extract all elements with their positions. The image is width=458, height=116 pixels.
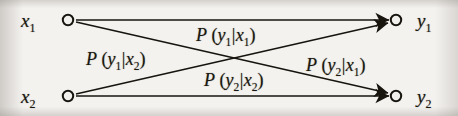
node-label-y1: y1 xyxy=(417,11,431,34)
node-label-x2: x2 xyxy=(21,87,35,110)
channel-transition-diagram: x1 x2 y1 y2 P (y1|x1) P (y1|x2) P (y2|x1… xyxy=(0,0,458,116)
node-y2 xyxy=(391,91,401,101)
node-x2 xyxy=(63,91,73,101)
edge-label-x2-y1: P (y1|x2) xyxy=(86,50,146,72)
node-label-x1: x1 xyxy=(21,11,35,34)
node-label-y2: y2 xyxy=(417,87,431,110)
edge-layer xyxy=(0,0,458,116)
edge-label-x2-y2: P (y2|x2) xyxy=(204,71,264,93)
edge-label-x1-y1: P (y1|x1) xyxy=(196,26,256,48)
edge-label-x1-y2: P (y2|x1) xyxy=(306,56,366,78)
node-x1 xyxy=(63,15,73,25)
node-y1 xyxy=(391,15,401,25)
